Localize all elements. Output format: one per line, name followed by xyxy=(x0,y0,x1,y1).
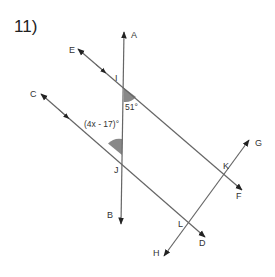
label-D: D xyxy=(199,238,206,248)
label-L: L xyxy=(178,219,183,229)
angle-label-I: 51° xyxy=(125,102,138,112)
angle-label-J: (4x - 17)° xyxy=(84,119,119,129)
label-G: G xyxy=(255,138,262,148)
label-K: K xyxy=(223,161,229,171)
parallel-mark-EF xyxy=(96,65,104,72)
label-E: E xyxy=(69,45,75,55)
parallel-lines-diagram: A B C D E F G H I J K L 51° (4x - 17)° xyxy=(0,0,275,277)
label-B: B xyxy=(107,210,113,220)
label-F: F xyxy=(236,191,242,201)
label-J: J xyxy=(114,165,119,175)
parallel-mark-CD xyxy=(58,109,67,117)
label-I: I xyxy=(115,73,118,83)
label-C: C xyxy=(30,89,37,99)
angle-mark-J xyxy=(108,139,122,155)
label-A: A xyxy=(131,30,137,40)
label-H: H xyxy=(153,248,160,258)
line-AB xyxy=(121,32,124,224)
